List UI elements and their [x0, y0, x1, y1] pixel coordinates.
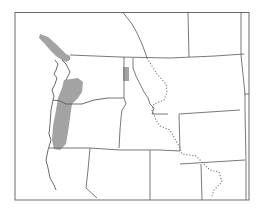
border-ut-co	[201, 164, 202, 200]
border-or-id	[119, 98, 126, 148]
range-map	[0, 0, 257, 211]
border-ca-nv	[86, 148, 97, 198]
range-area-vancouver-island	[39, 34, 70, 62]
border-mt-wy	[179, 110, 240, 114]
coastline-washington	[52, 60, 58, 100]
border-id-mt	[133, 58, 168, 114]
border-42nd-parallel	[49, 148, 180, 151]
border-bc-alberta	[123, 13, 147, 59]
range-area-oregon-cascades	[52, 78, 83, 150]
coastline-puget-sound	[62, 60, 70, 80]
border-wy-south	[180, 160, 245, 164]
continental-divide	[147, 58, 222, 196]
border-canada-us	[70, 54, 244, 58]
border-id-wy	[179, 114, 180, 151]
border-alberta-saskatchewan	[188, 13, 189, 58]
border-eastern-states	[241, 55, 246, 200]
